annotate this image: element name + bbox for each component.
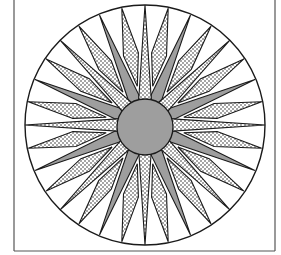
compass-figure	[0, 0, 281, 255]
center-hub-circle	[117, 99, 173, 155]
